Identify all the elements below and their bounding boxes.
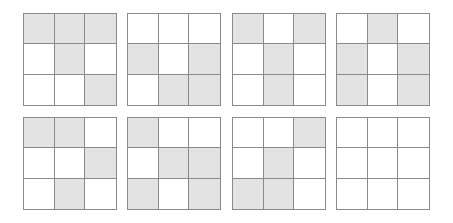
shaded-cell (189, 148, 220, 178)
empty-cell (159, 118, 190, 148)
shaded-cell (55, 118, 86, 148)
shaded-cell (294, 118, 325, 148)
shaded-cell (368, 14, 399, 44)
shaded-cell (189, 179, 220, 209)
empty-cell (233, 75, 264, 105)
empty-cell (24, 148, 55, 178)
empty-cell (264, 14, 295, 44)
shaded-cell (189, 44, 220, 74)
pattern-grid-4 (336, 13, 430, 106)
empty-cell (233, 148, 264, 178)
pattern-grid-1 (23, 13, 117, 106)
shaded-cell (264, 148, 295, 178)
empty-cell (264, 118, 295, 148)
shaded-cell (264, 179, 295, 209)
shaded-cell (24, 118, 55, 148)
empty-cell (398, 179, 429, 209)
empty-cell (233, 118, 264, 148)
pattern-grid-5 (23, 117, 117, 210)
empty-cell (233, 44, 264, 74)
pattern-grid-2 (127, 13, 221, 106)
pattern-grid-3 (232, 13, 326, 106)
empty-cell (159, 44, 190, 74)
shaded-cell (337, 75, 368, 105)
empty-cell (128, 75, 159, 105)
shaded-cell (159, 148, 190, 178)
shaded-cell (264, 44, 295, 74)
empty-cell (368, 118, 399, 148)
empty-cell (189, 14, 220, 44)
shaded-cell (128, 179, 159, 209)
shaded-cell (55, 44, 86, 74)
empty-cell (189, 118, 220, 148)
shaded-cell (159, 75, 190, 105)
shaded-cell (398, 75, 429, 105)
empty-cell (368, 75, 399, 105)
empty-cell (24, 75, 55, 105)
empty-cell (85, 179, 116, 209)
empty-cell (398, 14, 429, 44)
empty-cell (337, 118, 368, 148)
empty-cell (337, 148, 368, 178)
empty-cell (368, 179, 399, 209)
empty-cell (24, 179, 55, 209)
pattern-grid-6 (127, 117, 221, 210)
shaded-cell (337, 44, 368, 74)
empty-cell (128, 148, 159, 178)
shaded-cell (128, 118, 159, 148)
shaded-cell (85, 75, 116, 105)
empty-cell (294, 75, 325, 105)
shaded-cell (85, 14, 116, 44)
empty-cell (85, 118, 116, 148)
empty-cell (128, 14, 159, 44)
empty-cell (398, 148, 429, 178)
empty-cell (85, 44, 116, 74)
empty-cell (294, 148, 325, 178)
shaded-cell (233, 179, 264, 209)
empty-cell (55, 75, 86, 105)
empty-cell (368, 44, 399, 74)
shaded-cell (264, 75, 295, 105)
shaded-cell (294, 14, 325, 44)
empty-cell (159, 14, 190, 44)
empty-cell (159, 179, 190, 209)
shaded-cell (55, 179, 86, 209)
empty-cell (337, 14, 368, 44)
shaded-cell (128, 44, 159, 74)
empty-cell (55, 148, 86, 178)
pattern-grid-7 (232, 117, 326, 210)
empty-cell (294, 179, 325, 209)
shaded-cell (398, 44, 429, 74)
empty-cell (294, 44, 325, 74)
shaded-cell (24, 14, 55, 44)
shaded-cell (85, 148, 116, 178)
empty-cell (337, 179, 368, 209)
empty-cell (398, 118, 429, 148)
empty-cell (368, 148, 399, 178)
shaded-cell (55, 14, 86, 44)
pattern-grid-8 (336, 117, 430, 210)
shaded-cell (189, 75, 220, 105)
shaded-cell (233, 14, 264, 44)
empty-cell (24, 44, 55, 74)
